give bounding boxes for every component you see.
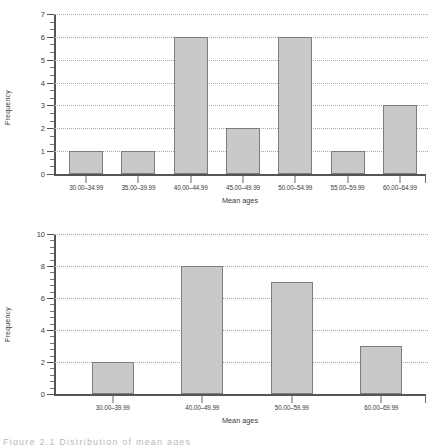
y-axis-minor-tick: [50, 375, 54, 376]
y-axis-tick-label: 5: [41, 55, 45, 64]
y-axis-minor-tick: [50, 324, 54, 325]
gridline: [54, 60, 428, 61]
y-axis-tick-label: 6: [41, 32, 45, 41]
y-axis-tick: [47, 83, 54, 84]
y-axis-tick: [47, 60, 54, 61]
x-axis-line-top: [54, 174, 426, 176]
y-axis-minor-tick: [50, 388, 54, 389]
y-axis-tick-label: 8: [41, 262, 45, 271]
gridline: [54, 105, 428, 106]
histogram-bar: [360, 346, 402, 394]
x-axis-tick-label: 40.00–49.99: [185, 404, 219, 411]
y-axis-tick: [47, 394, 54, 395]
x-axis-tick: [112, 395, 113, 403]
y-axis-minor-tick: [50, 90, 54, 91]
y-axis-minor-tick: [50, 285, 54, 286]
y-axis-tick-label: 2: [41, 358, 45, 367]
x-axis-tick: [190, 175, 191, 183]
y-axis-tick: [47, 151, 54, 152]
y-axis-tick-label: 1: [41, 147, 45, 156]
histogram-bar: [383, 105, 417, 174]
y-axis-minor-tick: [50, 67, 54, 68]
y-axis-minor-tick: [50, 113, 54, 114]
y-axis-minor-tick: [50, 44, 54, 45]
histogram-bar: [69, 151, 103, 174]
gridline: [54, 37, 428, 38]
y-axis-tick: [47, 14, 54, 15]
x-axis-tick-label: 50.00–54.99: [278, 184, 312, 191]
x-axis-tick-label: 30.00–34.99: [69, 184, 103, 191]
gridline: [54, 83, 428, 84]
gridline: [54, 266, 428, 267]
y-axis-tick-label: 2: [41, 124, 45, 133]
y-axis-tick: [47, 234, 54, 235]
x-axis-tick: [347, 175, 348, 183]
y-axis-minor-tick: [50, 166, 54, 167]
y-axis-tick-label: 4: [41, 326, 45, 335]
y-axis-minor-tick: [50, 253, 54, 254]
histogram-bar: [278, 37, 312, 174]
histogram-bar: [271, 282, 313, 394]
y-axis-tick: [47, 330, 54, 331]
gridline: [54, 14, 428, 15]
y-axis-minor-tick: [50, 159, 54, 160]
gridline: [54, 298, 428, 299]
y-axis-minor-tick: [50, 317, 54, 318]
y-axis-title-bottom: Frequency: [0, 220, 14, 428]
plot-area-top: 0123456730.00–34.9935.00–39.9940.00–44.9…: [54, 14, 426, 174]
y-axis-minor-tick: [50, 368, 54, 369]
y-axis-tick: [47, 362, 54, 363]
y-axis-tick: [47, 37, 54, 38]
x-axis-tick: [399, 175, 400, 183]
y-axis-line-bottom: [54, 234, 56, 395]
histogram-bar: [181, 266, 223, 394]
x-axis-tick-label: 40.00–44.99: [174, 184, 208, 191]
figure-container: Frequency 0123456730.00–34.9935.00–39.99…: [0, 0, 437, 445]
x-axis-tick: [243, 175, 244, 183]
x-axis-tick: [202, 395, 203, 403]
plot-area-bottom: 024681030.00–39.9940.00–49.9950.00–59.99…: [54, 234, 426, 394]
figure-caption: Figure 2.1 Distribution of mean ages: [3, 437, 433, 445]
x-axis-end-tick-bottom: [425, 395, 426, 403]
y-axis-minor-tick: [50, 272, 54, 273]
y-axis-tick: [47, 105, 54, 106]
y-axis-tick-label: 0: [41, 390, 45, 399]
y-axis-minor-tick: [50, 336, 54, 337]
histogram-bar: [92, 362, 134, 394]
gridline: [54, 330, 428, 331]
y-axis-minor-tick: [50, 29, 54, 30]
y-axis-tick-label: 7: [41, 10, 45, 19]
x-axis-tick-label: 55.00–59.99: [331, 184, 365, 191]
x-axis-title-bottom: Mean ages: [54, 416, 426, 425]
y-axis-minor-tick: [50, 304, 54, 305]
y-axis-tick-label: 0: [41, 170, 45, 179]
y-axis-tick: [47, 174, 54, 175]
histogram-bar: [226, 128, 260, 174]
y-axis-minor-tick: [50, 22, 54, 23]
y-axis-minor-tick: [50, 136, 54, 137]
y-axis-minor-tick: [50, 75, 54, 76]
x-axis-line-bottom: [54, 394, 426, 396]
y-axis-minor-tick: [50, 247, 54, 248]
x-axis-tick-label: 60.00–69.99: [364, 404, 398, 411]
y-axis-tick-label: 10: [37, 230, 45, 239]
y-axis-title-top: Frequency: [0, 0, 14, 215]
x-axis-tick-label: 60.00–64.99: [383, 184, 417, 191]
y-axis-minor-tick: [50, 144, 54, 145]
y-axis-minor-tick: [50, 356, 54, 357]
histogram-bar: [174, 37, 208, 174]
histogram-top: Frequency 0123456730.00–34.9935.00–39.99…: [0, 0, 437, 215]
x-axis-tick: [381, 395, 382, 403]
x-axis-tick: [295, 175, 296, 183]
y-axis-tick: [47, 298, 54, 299]
y-axis-minor-tick: [50, 260, 54, 261]
x-axis-tick: [86, 175, 87, 183]
y-axis-minor-tick: [50, 121, 54, 122]
histogram-bar: [121, 151, 155, 174]
y-axis-minor-tick: [50, 349, 54, 350]
x-axis-end-tick-top: [425, 175, 426, 183]
y-axis-minor-tick: [50, 240, 54, 241]
y-axis-minor-tick: [50, 279, 54, 280]
histogram-bar: [331, 151, 365, 174]
x-axis-tick-label: 45.00–49.99: [226, 184, 260, 191]
